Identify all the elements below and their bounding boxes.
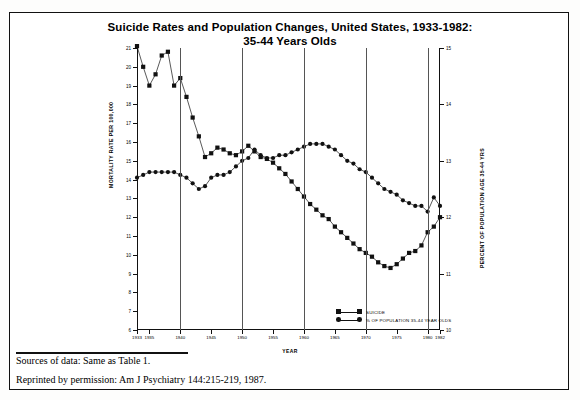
x-tick-label-1970: 1970 [361,335,371,340]
data-point [413,249,417,253]
y-tick-label-right-15: 15 [446,46,451,51]
y-tick-label-right-14: 14 [446,102,451,107]
data-point [228,151,232,155]
plot-area: 6789101112131415161718192021 10111213141… [137,48,440,330]
data-point [339,230,343,234]
y-tick-label-left-16: 16 [126,140,131,145]
data-point [172,84,176,88]
data-point [191,115,195,119]
y-tick-label-left-12: 12 [126,215,131,220]
y-tick-label-left-6: 6 [128,328,131,333]
page-title: Suicide Rates and Population Changes, Un… [60,20,520,48]
y-tick-label-left-7: 7 [128,309,131,314]
y-tick-left-12 [133,217,137,218]
legend-item-suicide: SUICIDE [336,308,451,316]
y-tick-label-left-10: 10 [126,252,131,257]
y-tick-left-19 [133,86,137,87]
data-point [141,173,145,177]
y-tick-label-left-9: 9 [128,271,131,276]
reference-line-1970 [366,48,367,330]
data-point [209,176,213,180]
y-tick-label-right-12: 12 [446,215,451,220]
data-point [370,176,374,180]
data-point [358,247,362,251]
data-point [401,198,405,202]
reference-line-1940 [180,48,181,330]
x-tick-1933 [137,330,138,334]
y-tick-left-11 [133,236,137,237]
data-point [203,155,207,159]
data-point [407,251,411,255]
data-point [351,162,355,166]
y-tick-label-left-20: 20 [126,64,131,69]
y-tick-left-13 [133,198,137,199]
data-point [432,225,436,229]
y-tick-label-left-8: 8 [128,290,131,295]
data-point [141,65,145,69]
y-tick-left-15 [133,161,137,162]
x-tick-1955 [273,330,274,334]
axis-left [137,48,138,330]
x-tick-label-1975: 1975 [392,335,402,340]
y-tick-right-12 [440,217,444,218]
y-tick-label-left-21: 21 [126,46,131,51]
x-tick-label-1955: 1955 [268,335,278,340]
legend-label-suicide: SUICIDE [366,310,385,315]
data-point [432,195,436,199]
data-point [327,145,331,149]
y-tick-left-8 [133,292,137,293]
data-point [314,142,318,146]
data-point [395,262,399,266]
data-point [221,173,225,177]
y-tick-label-right-13: 13 [446,158,451,163]
data-point [314,208,318,212]
data-point [401,256,405,260]
y-tick-label-right-11: 11 [446,271,451,276]
x-tick-1975 [397,330,398,334]
y-tick-left-9 [133,274,137,275]
data-point [333,147,337,151]
data-point [246,156,250,160]
legend-marker-circle [336,316,362,324]
data-point [197,134,201,138]
data-point [234,164,238,168]
data-point [289,150,293,154]
x-tick-label-1945: 1945 [206,335,216,340]
y-tick-label-left-11: 11 [126,234,131,239]
data-point [382,264,386,268]
x-tick-label-1960: 1960 [299,335,309,340]
y-tick-left-14 [133,180,137,181]
data-point [172,170,176,174]
data-point [259,153,263,157]
data-point [320,213,324,217]
data-point [407,201,411,205]
x-tick-label-1965: 1965 [330,335,340,340]
x-tick-1940 [180,330,181,334]
y-tick-right-11 [440,274,444,275]
permission-note: Reprinted by permission: Am J Psychiatry… [16,374,266,385]
data-point [388,190,392,194]
data-series [137,48,440,330]
x-tick-1982 [440,330,441,334]
y-tick-label-left-19: 19 [126,83,131,88]
data-point [277,166,281,170]
y-tick-right-15 [440,48,444,49]
reference-line-1960 [304,48,305,330]
data-point [191,181,195,185]
y-tick-left-20 [133,67,137,68]
data-point [228,170,232,174]
data-point [345,236,349,240]
data-point [358,167,362,171]
data-point [419,204,423,208]
data-point [203,184,207,188]
data-point [265,156,269,160]
y-tick-label-left-14: 14 [126,177,131,182]
x-tick-label-1950: 1950 [237,335,247,340]
data-point [345,159,349,163]
x-tick-label-1933: 1933 [132,335,142,340]
data-point [413,204,417,208]
y-tick-left-10 [133,255,137,256]
data-point [283,153,287,157]
data-point [376,260,380,264]
y-tick-left-17 [133,123,137,124]
